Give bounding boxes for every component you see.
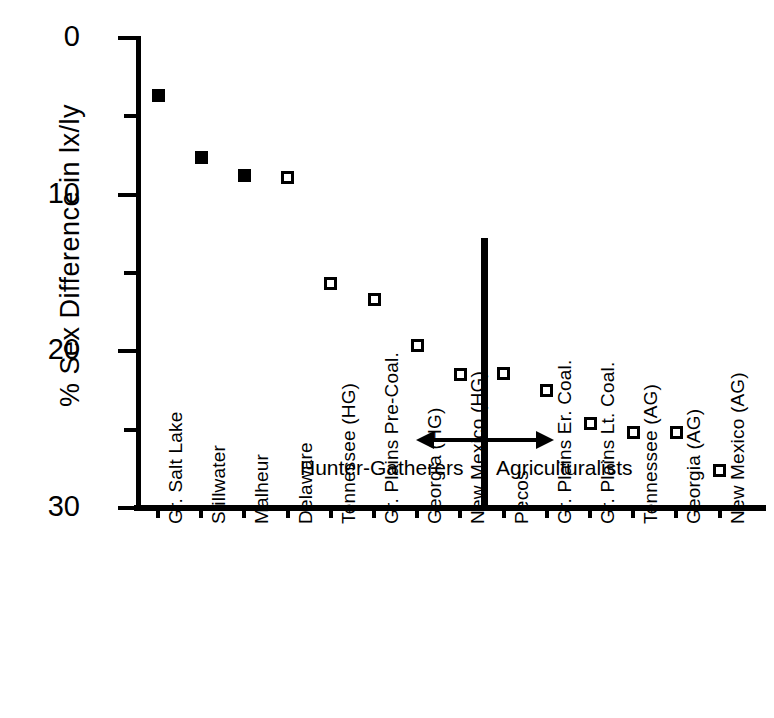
y-tick-major [118, 349, 137, 353]
x-axis-label: Gr. Plains Er. Coal. [554, 359, 576, 524]
x-axis-label: Gr. Plains Pre-Coal. [381, 352, 403, 524]
data-point [238, 169, 251, 182]
x-axis-label: Georgia (AG) [683, 409, 705, 524]
x-axis-label: Tennessee (AG) [640, 384, 662, 524]
x-axis-label: Malheur [251, 454, 273, 524]
data-point [713, 464, 726, 477]
x-tick [502, 505, 506, 518]
x-tick [458, 505, 462, 518]
x-tick [545, 505, 549, 518]
hunter-gatherers-label: Hunter-Gatherers [300, 456, 463, 480]
x-tick [286, 505, 290, 518]
arrow-line [424, 438, 546, 442]
x-tick [718, 505, 722, 518]
data-point [497, 367, 510, 380]
span-arrow [416, 431, 554, 449]
y-tick-major [118, 506, 137, 510]
data-point [627, 426, 640, 439]
x-tick [242, 505, 246, 518]
x-tick [329, 505, 333, 518]
y-tick-minor [124, 428, 137, 432]
x-axis-label: Stillwater [208, 445, 230, 524]
data-point [540, 384, 553, 397]
y-tick-label: 30 [0, 492, 80, 521]
data-point [195, 151, 208, 164]
x-tick [588, 505, 592, 518]
data-point [368, 293, 381, 306]
y-tick-label: 0 [0, 22, 80, 51]
data-point [411, 339, 424, 352]
x-axis-label: Gr. Plains Lt. Coal. [597, 362, 619, 524]
x-axis-label: Delaware [295, 442, 317, 524]
data-point [670, 426, 683, 439]
y-tick-label: 10 [0, 179, 80, 208]
data-point [152, 89, 165, 102]
group-divider-line [481, 238, 488, 506]
x-tick [674, 505, 678, 518]
x-tick [415, 505, 419, 518]
arrow-head-right-icon [536, 431, 554, 449]
y-axis-title: % Sex Difference in lx/ly [55, 16, 86, 496]
x-axis-label: Gr. Salt Lake [165, 412, 187, 524]
data-point [584, 417, 597, 430]
x-tick [372, 505, 376, 518]
agriculturalists-label: Agriculturalists [496, 456, 633, 480]
x-tick [199, 505, 203, 518]
y-tick-major [118, 36, 137, 40]
data-point [324, 277, 337, 290]
x-tick [631, 505, 635, 518]
scatter-chart: % Sex Difference in lx/ly 3020100 Gr. Sa… [0, 0, 774, 718]
data-point [281, 171, 294, 184]
x-tick [156, 505, 160, 518]
y-tick-label: 20 [0, 335, 80, 364]
x-axis-label: New Mexico (AG) [727, 372, 749, 524]
data-point [454, 368, 467, 381]
y-tick-major [118, 193, 137, 197]
x-axis-label: Tennessee (HG) [338, 383, 360, 524]
y-tick-minor [124, 114, 137, 118]
y-tick-minor [124, 271, 137, 275]
